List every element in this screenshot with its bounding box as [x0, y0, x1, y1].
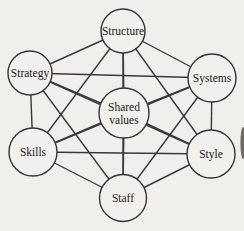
diagram-svg: StructureStrategySystemsSharedvaluesSkil… [0, 0, 244, 231]
seven-s-diagram: StructureStrategySystemsSharedvaluesSkil… [0, 0, 244, 231]
node-skills: Skills [9, 128, 57, 176]
node-systems-label: Systems [193, 72, 232, 85]
artifacts-layer [240, 127, 244, 159]
edge-skills-style [33, 152, 211, 154]
edge-strategy-systems [30, 73, 212, 78]
node-shared-values: Sharedvalues [99, 88, 149, 138]
node-structure: Structure [101, 9, 145, 53]
node-staff-label: Staff [112, 192, 134, 204]
node-style: Style [187, 130, 235, 178]
node-shared-values-circle [99, 88, 149, 138]
node-strategy-label: Strategy [11, 67, 50, 80]
node-staff: Staff [100, 175, 147, 222]
scan-smudge-artifact [240, 127, 244, 159]
node-skills-label: Skills [20, 146, 47, 158]
node-systems: Systems [188, 54, 236, 102]
node-style-label: Style [199, 148, 223, 161]
node-strategy: Strategy [8, 51, 52, 95]
nodes-layer: StructureStrategySystemsSharedvaluesSkil… [8, 9, 236, 222]
node-shared-values-label: Sharedvalues [108, 101, 140, 126]
node-structure-label: Structure [102, 25, 144, 37]
